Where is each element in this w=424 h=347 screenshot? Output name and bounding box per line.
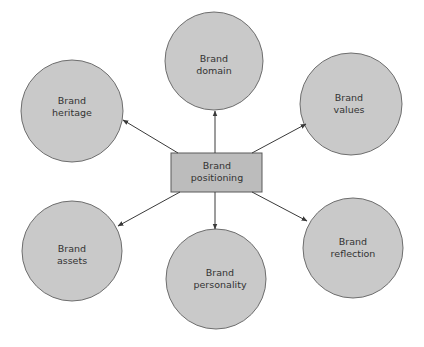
label-assets: Brand assets xyxy=(57,243,87,267)
label-personality-line1: Brand xyxy=(193,267,246,279)
label-values-line1: Brand xyxy=(334,92,365,104)
label-personality: Brand personality xyxy=(193,267,246,291)
arrow-to-values xyxy=(252,124,306,153)
arrow-to-heritage xyxy=(123,120,178,153)
label-domain-line2: domain xyxy=(196,65,232,77)
arrow-to-assets xyxy=(118,192,180,226)
label-reflection: Brand reflection xyxy=(331,236,376,260)
label-domain-line1: Brand xyxy=(196,53,232,65)
label-reflection-line2: reflection xyxy=(331,248,376,260)
label-heritage: Brand heritage xyxy=(52,95,92,119)
label-domain: Brand domain xyxy=(196,53,232,77)
label-values: Brand values xyxy=(334,92,365,116)
label-assets-line2: assets xyxy=(57,255,87,267)
label-assets-line1: Brand xyxy=(57,243,87,255)
label-center-line1: Brand xyxy=(191,160,243,172)
label-reflection-line1: Brand xyxy=(331,236,376,248)
label-center-line2: positioning xyxy=(191,172,243,184)
arrow-to-reflection xyxy=(252,192,307,221)
label-center: Brand positioning xyxy=(191,160,243,184)
label-heritage-line2: heritage xyxy=(52,107,92,119)
label-values-line2: values xyxy=(334,104,365,116)
label-heritage-line1: Brand xyxy=(52,95,92,107)
label-personality-line2: personality xyxy=(193,279,246,291)
